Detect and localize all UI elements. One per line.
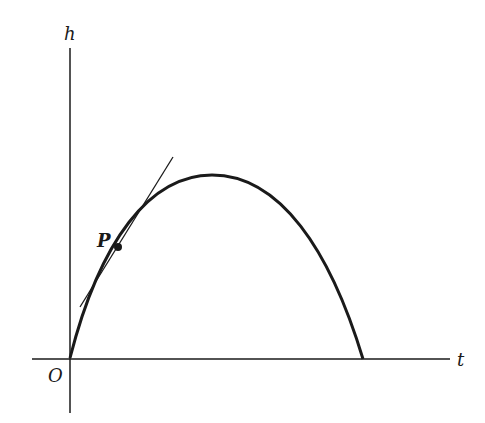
t-axis-label: t <box>457 351 464 369</box>
h-axis-label: h <box>64 25 76 43</box>
origin-label: O <box>48 367 63 385</box>
point-p <box>114 243 122 251</box>
trajectory-curve <box>70 175 363 359</box>
trajectory-diagram <box>0 0 485 423</box>
tangent-line <box>80 157 173 307</box>
point-p-label: P <box>97 232 111 250</box>
